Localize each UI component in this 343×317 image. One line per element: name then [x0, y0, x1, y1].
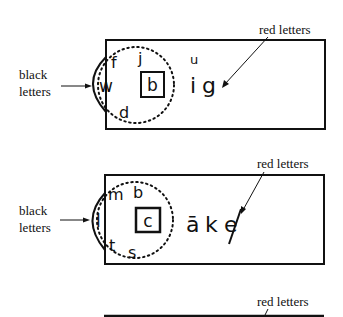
panel-2-black-label-line2: letters: [19, 220, 51, 235]
panel-2-red-letter-a-macron: ā: [186, 212, 199, 237]
panel-2: c m b l t s ā k e black letters red lett…: [19, 156, 324, 264]
panel-1-red-letter-u: u: [190, 52, 198, 67]
panel-1-red-arrow: [225, 37, 268, 84]
panel-1-red-letter-g: g: [202, 73, 216, 98]
panel-2-box-letter: c: [143, 211, 152, 231]
panel-2-circle-letter-l: l: [96, 211, 101, 231]
panel-1-circle-letter-w: w: [99, 76, 113, 96]
panel-1-black-label-line1: black: [19, 67, 48, 82]
panel-2-red-letter-k: k: [205, 212, 218, 237]
panel-1-black-label-line2: letters: [19, 84, 51, 99]
panel-2-red-arrow: [243, 172, 264, 210]
panel-2-red-arrowhead: [241, 206, 246, 214]
panel-3-red-arrow: [265, 309, 268, 315]
panel-2-circle-letter-m: m: [108, 185, 124, 204]
letter-wheel-diagram: b f j w d u i g black letters red letter…: [0, 0, 343, 317]
panel-1-circle-letter-j: j: [137, 49, 142, 68]
panel-3-red-label: red letters: [257, 294, 309, 309]
panel-3: red letters: [104, 294, 324, 316]
panel-1-circle-letter-d: d: [119, 103, 129, 122]
panel-1: b f j w d u i g black letters red letter…: [19, 22, 325, 129]
panel-1-box-letter: b: [147, 75, 158, 95]
panel-2-red-label: red letters: [257, 156, 309, 171]
panel-2-black-arrowhead: [83, 218, 90, 223]
panel-2-circle-letter-t: t: [109, 236, 115, 255]
panel-1-red-letter-i: i: [190, 73, 196, 98]
panel-2-black-label-line1: black: [19, 203, 48, 218]
panel-2-circle-letter-b: b: [133, 183, 143, 202]
panel-1-black-arrowhead: [85, 84, 92, 89]
panel-2-circle-letter-s: s: [128, 243, 136, 262]
panel-1-circle-letter-f: f: [111, 53, 117, 72]
panel-1-red-label: red letters: [259, 22, 311, 37]
